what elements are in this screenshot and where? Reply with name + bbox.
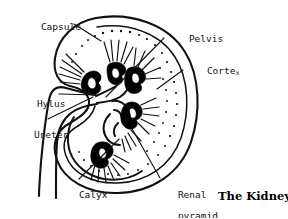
label-cortex: Cortex — [184, 55, 239, 88]
label-capsule: Capsule — [18, 11, 81, 43]
kidney-diagram-page: Capsule Pelvis Cortex Hylus Ureter Calyx… — [0, 0, 288, 218]
label-cortex-text: Corte — [207, 65, 236, 76]
label-cortex-text-tail: x — [236, 69, 240, 77]
label-hylus-text: Hylus — [37, 98, 66, 109]
label-pelvis-text: Pelvis — [189, 33, 223, 44]
label-capsule-text: Capsule — [41, 21, 81, 32]
label-renal-pyramid: Renal pyramid — [155, 179, 218, 218]
leader-renal-pyramid — [131, 127, 160, 178]
label-renal-pyramid-line1: Renal — [178, 189, 207, 200]
label-pelvis: Pelvis — [166, 23, 223, 55]
label-calyx-text: Calyx — [79, 189, 108, 200]
label-calyx: Calyx — [56, 179, 108, 211]
leader-cortex — [157, 70, 183, 89]
label-ureter: Ureter — [11, 119, 68, 151]
label-hylus: Hylus — [14, 88, 66, 120]
label-ureter-text: Ureter — [34, 129, 68, 140]
label-renal-pyramid-line2: pyramid — [178, 210, 218, 219]
figure-caption: The Kidney — [218, 189, 288, 203]
